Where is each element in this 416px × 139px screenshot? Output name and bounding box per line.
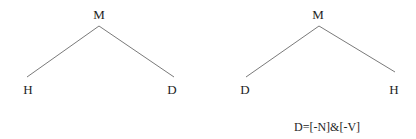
left-tree-child-h-label: H [23,83,32,96]
tree-edges [0,0,416,139]
edge-right-tree-m-to-h [319,26,395,72]
left-tree-root-label: M [93,8,105,21]
diagram-canvas: M H D M D H D=[-N]&[-V] [0,0,416,139]
right-tree-child-d-label: D [240,83,249,96]
right-tree-child-h-label: H [389,83,398,96]
left-tree-child-d-label: D [167,83,176,96]
edge-right-tree-m-to-d [246,26,319,77]
right-tree-root-label: M [312,8,324,21]
edge-left-tree-m-to-h [27,26,99,77]
feature-caption: D=[-N]&[-V] [294,121,360,133]
edge-left-tree-m-to-d [99,26,174,77]
